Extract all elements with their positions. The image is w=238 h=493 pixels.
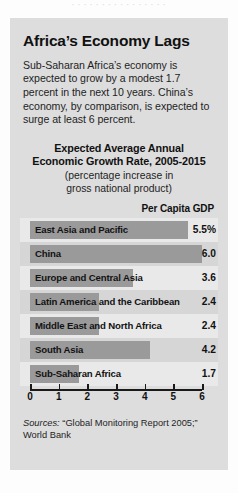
table-row: Latin America and the Caribbean2.4 (20, 290, 218, 314)
bar-category-label: South Asia (35, 338, 83, 362)
value-column-header: Per Capita GDP (10, 195, 228, 214)
chart-subtitle: (percentage increase in gross national p… (10, 168, 228, 195)
article-lede: Sub-Saharan Africa’s economy is expected… (10, 50, 228, 127)
bar-value-label: 2.4 (202, 290, 216, 314)
chart-title-line-2: Economic Growth Rate, 2005-2015 (24, 155, 214, 168)
table-row: Europe and Central Asia3.6 (20, 266, 218, 290)
bar-value-label: 6.0 (202, 242, 216, 266)
x-axis-tick (145, 384, 147, 390)
bar-category-label: Europe and Central Asia (35, 266, 143, 290)
bar-category-label: East Asia and Pacific (35, 218, 128, 242)
table-row: Middle East and North Africa2.4 (20, 314, 218, 338)
x-axis-tick-label: 1 (51, 391, 67, 402)
bar-category-label: Latin America and the Caribbean (35, 290, 180, 314)
x-axis-tick (116, 384, 118, 390)
bar-value-label: 3.6 (202, 266, 216, 290)
bar-value-label: 5.5% (193, 218, 216, 242)
x-axis-tick-label: 3 (108, 391, 124, 402)
table-row: East Asia and Pacific5.5% (20, 218, 218, 242)
table-row: South Asia4.2 (20, 338, 218, 362)
clipped-header-strip: · · · · · · · · · · · · · · · · (0, 0, 238, 9)
chart-title-line-1: Expected Average Annual (24, 142, 214, 155)
table-row: China6.0 (20, 242, 218, 266)
chart-title: Expected Average Annual Economic Growth … (10, 127, 228, 168)
x-axis-tick-label: 5 (165, 391, 181, 402)
bar-category-label: Sub-Saharan Africa (35, 362, 121, 386)
page-title: Africa’s Economy Lags (10, 18, 228, 50)
x-axis-tick-label: 2 (79, 391, 95, 402)
x-axis-tick-label: 6 (194, 391, 210, 402)
x-axis-tick (173, 384, 175, 390)
infographic-root: · · · · · · · · · · · · · · · · Africa’s… (0, 0, 238, 493)
x-axis-tick (87, 384, 89, 390)
bar-category-label: China (35, 242, 61, 266)
x-axis-tick (202, 384, 204, 390)
x-axis-tick-label: 0 (22, 391, 38, 402)
article-panel: Africa’s Economy Lags Sub-Saharan Africa… (10, 18, 228, 470)
chart-subtitle-line-2: gross national product) (24, 183, 214, 196)
bar-value-label: 1.7 (202, 362, 216, 386)
chart-subtitle-line-1: (percentage increase in (24, 170, 214, 183)
bar-category-label: Middle East and North Africa (35, 314, 162, 338)
x-axis-tick-label: 4 (137, 391, 153, 402)
table-row: Sub-Saharan Africa1.7 (20, 362, 218, 386)
bar-chart-plot: East Asia and Pacific5.5%China6.0Europe … (10, 218, 228, 390)
x-axis-tick (59, 384, 61, 390)
bar-value-label: 4.2 (202, 338, 216, 362)
x-axis-tick (30, 384, 32, 390)
bar-value-label: 2.4 (202, 314, 216, 338)
sources-label: Sources: (23, 418, 60, 428)
